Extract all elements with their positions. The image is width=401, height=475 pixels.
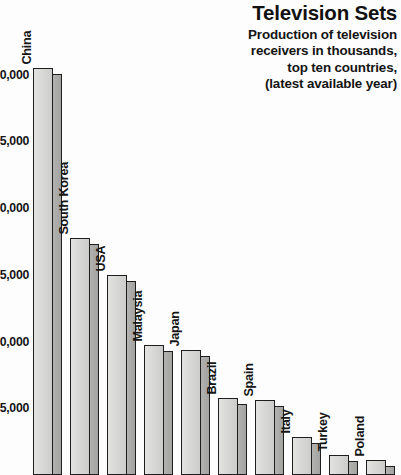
bar-front-face: [366, 460, 386, 475]
bar-front-face: [255, 400, 275, 475]
bar-category-label: Spain: [243, 364, 256, 397]
bar-side-face: [90, 244, 99, 475]
bar-group[interactable]: Poland: [366, 460, 396, 475]
plot-area: ChinaSouth KoreaUSAMalaysiaJapanBrazilSp…: [31, 0, 401, 475]
bar-front-face: [144, 345, 164, 475]
y-axis-tick-label: 0,000: [0, 68, 29, 82]
bar-category-label: Japan: [169, 312, 182, 347]
bar-category-label: Brazil: [206, 362, 219, 395]
bar-front-face: [107, 275, 127, 475]
y-axis-tick-label: 5,000: [0, 268, 29, 282]
bar-side-face: [53, 74, 62, 475]
bar-side-face: [349, 461, 358, 475]
bar-category-label: USA: [95, 246, 108, 272]
y-axis-tick-label: 0,000: [0, 201, 29, 215]
bar-front-face: [70, 238, 90, 475]
bar-group[interactable]: South Korea: [70, 238, 100, 475]
y-axis-tick-label: 5,000: [0, 134, 29, 148]
bar-front-face: [329, 455, 349, 475]
bar-category-label: Turkey: [317, 413, 330, 452]
bar-front-face: [33, 68, 53, 475]
bar-front-face: [218, 398, 238, 475]
bar-group[interactable]: Brazil: [218, 398, 248, 475]
bar-side-face: [386, 466, 395, 475]
bar-category-label: Malaysia: [132, 291, 145, 342]
bar-group[interactable]: Malaysia: [144, 345, 174, 475]
bar-category-label: South Korea: [58, 162, 71, 235]
bar-category-label: Poland: [354, 416, 367, 457]
y-axis-tick-label: 0,000: [0, 335, 29, 349]
bar-front-face: [181, 350, 201, 475]
y-axis-tick-label: 5,000: [0, 401, 29, 415]
bar-group[interactable]: China: [33, 68, 63, 475]
bar-category-label: China: [21, 31, 34, 65]
bar-category-label: Italy: [280, 410, 293, 434]
bar-side-face: [164, 351, 173, 475]
television-sets-bar-chart: Television Sets Production of television…: [0, 0, 401, 475]
bar-front-face: [292, 437, 312, 475]
bar-side-face: [238, 404, 247, 475]
y-axis: 0,0005,0000,0005,0000,0005,000: [0, 0, 31, 475]
bar-group[interactable]: Turkey: [329, 455, 359, 475]
